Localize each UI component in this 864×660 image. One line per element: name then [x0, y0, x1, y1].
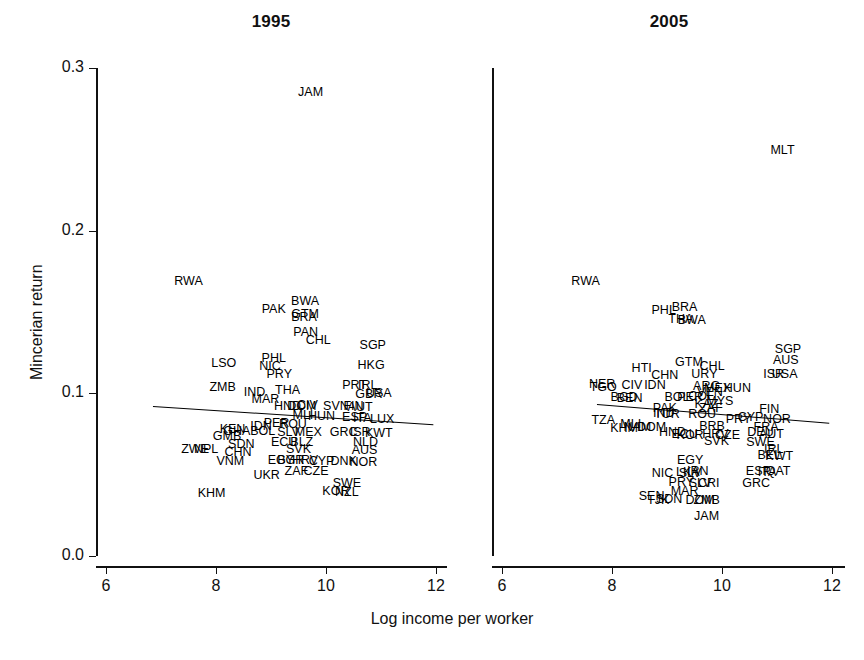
data-point-label: MAR — [671, 485, 699, 498]
data-point-label: FIN — [343, 400, 363, 413]
data-point-label: CHL — [700, 360, 725, 373]
data-point-label: DOM — [685, 494, 714, 507]
x-tick-label-1995-6: 6 — [86, 577, 126, 595]
figure-root: 1995 JAMRWAPAKBWAGTMBRAPANCHLSGPLSOPHLNI… — [0, 0, 864, 660]
data-point-label: ARG — [693, 380, 720, 393]
data-point-label: SLV — [277, 425, 300, 438]
y-axis-spine-2005 — [492, 68, 494, 556]
data-point-label: NIC — [259, 359, 281, 372]
data-point-label: RWA — [571, 275, 599, 288]
data-point-label: ROU — [688, 408, 716, 421]
data-point-label: SVK — [704, 435, 729, 448]
data-point-label: JAM — [694, 510, 719, 523]
data-point-label: DOM — [287, 400, 316, 413]
y-tick-label-0.3: 0.3 — [26, 58, 84, 76]
data-point-label: ROU — [279, 418, 307, 431]
x-tick-label-2005-10: 10 — [702, 577, 742, 595]
data-point-label: IRL — [358, 379, 377, 392]
data-point-label: AUS — [352, 444, 378, 457]
data-point-label: BGR — [277, 454, 304, 467]
data-point-label: ZMB — [209, 381, 235, 394]
data-point-label: SLV — [689, 477, 712, 490]
data-point-label: CYP — [738, 411, 764, 424]
data-point-label: SEN — [639, 490, 665, 503]
data-point-label: ZAF — [699, 402, 723, 415]
data-point-label: PRY — [267, 368, 292, 381]
data-point-label: PER — [264, 417, 290, 430]
y-axis-label: Mincerian return — [28, 264, 46, 380]
data-point-label: KWT — [765, 450, 793, 463]
data-point-label: ECU — [671, 428, 697, 441]
data-point-label: MEX — [704, 381, 731, 394]
x-axis-spine-1995 — [96, 566, 447, 568]
data-point-label: PHL — [652, 304, 676, 317]
data-point-label: HRV — [292, 454, 318, 467]
data-point-label: MLI — [620, 418, 641, 431]
data-point-label: BGD — [611, 391, 638, 404]
data-point-label: SVK — [286, 443, 311, 456]
y-tick-label-0.1: 0.1 — [26, 383, 84, 401]
x-tick-1995-8 — [216, 567, 217, 574]
y-tick-0.2 — [89, 231, 96, 232]
data-point-label: CIV — [297, 398, 318, 411]
data-point-label: NOR — [763, 413, 791, 426]
data-point-label: THA — [275, 384, 300, 397]
data-point-label: JAM — [298, 85, 323, 98]
data-point-label: BRA — [291, 311, 317, 324]
data-point-label: HTI — [632, 362, 652, 375]
data-point-label: AUS — [773, 354, 799, 367]
y-tick-0.3 — [89, 68, 96, 69]
data-point-label: NZL — [335, 485, 359, 498]
data-point-label: NER — [589, 377, 615, 390]
data-point-label: GRC — [742, 477, 770, 490]
data-point-label: EGY — [677, 454, 703, 467]
data-point-label: BWA — [678, 314, 706, 327]
data-point-label: CHN — [224, 446, 251, 459]
data-point-label: GTM — [675, 355, 703, 368]
data-point-label: ZAF — [284, 465, 308, 478]
data-point-label: MLI — [292, 409, 313, 422]
x-tick-2005-8 — [612, 567, 613, 574]
data-point-label: HRV — [702, 428, 728, 441]
data-point-label: COL — [688, 390, 714, 403]
data-point-label: IRN — [687, 465, 709, 478]
data-point-label: ESP — [342, 411, 367, 424]
data-point-label: TUR — [654, 407, 680, 420]
x-tick-1995-10 — [326, 567, 327, 574]
data-point-label: BEL — [757, 449, 781, 462]
data-point-label: SVN — [323, 399, 349, 412]
data-point-label: GRC — [330, 426, 358, 439]
data-point-label: BRA — [672, 301, 698, 314]
data-point-label: BEN — [617, 392, 643, 405]
data-point-label: ISR — [763, 368, 784, 381]
data-point-label: LUX — [370, 413, 394, 426]
regression-line-2005 — [597, 404, 830, 424]
x-tick-1995-6 — [106, 567, 107, 574]
panel-title-2005: 2005 — [650, 12, 689, 32]
data-point-label: PAN — [293, 325, 318, 338]
data-point-label: SDN — [656, 493, 682, 506]
data-point-label: USA — [366, 387, 392, 400]
data-point-label: BWA — [291, 294, 319, 307]
data-point-label: ESP — [746, 465, 771, 478]
data-point-label: HKG — [358, 359, 385, 372]
data-point-label: NLD — [353, 436, 378, 449]
data-point-label: SLV — [679, 467, 702, 480]
data-point-label: GHA — [223, 424, 250, 437]
data-point-label: BOL — [250, 424, 275, 437]
data-point-label: PRT — [342, 379, 367, 392]
data-point-label: CZE — [304, 465, 329, 478]
y-tick-0.0 — [89, 556, 96, 557]
plot-area-1995: JAMRWAPAKBWAGTMBRAPANCHLSGPLSOPHLNICHKGP… — [0, 0, 864, 660]
y-tick-label-0.2: 0.2 — [26, 221, 84, 239]
x-tick-2005-12 — [832, 567, 833, 574]
data-point-label: VNM — [216, 455, 244, 468]
data-point-label: HUN — [724, 382, 751, 395]
data-point-label: TJK — [647, 494, 669, 507]
data-point-label: ECU — [271, 436, 297, 449]
data-point-label: UKR — [253, 468, 279, 481]
x-tick-1995-12 — [436, 567, 437, 574]
panel-title-1995: 1995 — [252, 12, 291, 32]
data-point-label: LSO — [211, 357, 236, 370]
data-point-label: PAK — [262, 302, 286, 315]
